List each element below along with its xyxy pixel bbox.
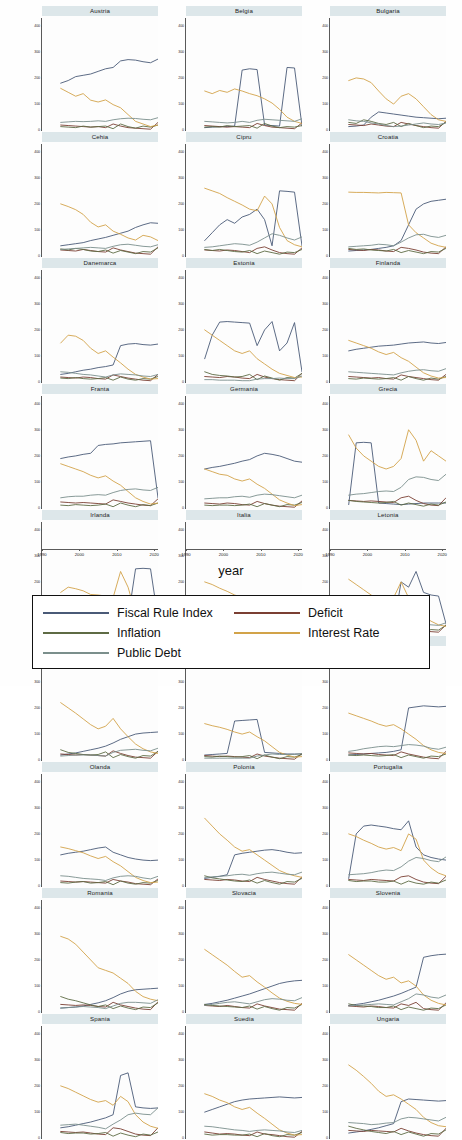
y-tick-label: 100 [178, 732, 184, 736]
facet-strip: Croatia [330, 132, 446, 142]
plot-area [42, 1024, 158, 1140]
facet-panel: Suedia0100200300400 [162, 1014, 302, 1140]
x-tick-label: 2010 [256, 552, 265, 557]
series-line [205, 330, 302, 378]
series-line [349, 1065, 446, 1127]
facet-panel: Danemarca0100200300400 [18, 258, 158, 384]
plot-area [42, 898, 158, 1014]
y-tick-label: 200 [178, 958, 184, 962]
y-tick-label: 300 [34, 176, 40, 180]
facet-strip: Bulgaria [330, 6, 446, 16]
y-tick-label: 300 [34, 302, 40, 306]
plot-area [186, 1024, 302, 1140]
x-tick-mark [261, 549, 262, 551]
legend-item[interactable]: Inflation [43, 626, 228, 640]
series-line [349, 474, 446, 495]
series-line [205, 494, 302, 499]
y-tick-label: 100 [322, 480, 328, 484]
facet-panel: Bulgaria0100200300400 [306, 6, 446, 132]
y-tick-label: 400 [322, 276, 328, 280]
series-line [61, 936, 158, 1000]
y-tick-label: 100 [322, 354, 328, 358]
legend-item[interactable]: Deficit [234, 606, 419, 620]
series-line [349, 369, 446, 375]
y-tick-label: 0 [182, 1136, 184, 1140]
y-tick-label: 200 [322, 958, 328, 962]
legend-line-icon [43, 632, 109, 634]
y-axis: 0100200300400 [306, 1024, 330, 1140]
y-tick-label: 400 [322, 24, 328, 28]
facet-panel: Austria0100200300400 [18, 6, 158, 132]
y-tick-label: 200 [34, 580, 40, 584]
x-tick-label: 2000 [219, 552, 228, 557]
facet-strip: Danemarca [42, 258, 158, 268]
facet-title: Suedia [234, 1014, 254, 1024]
series-line [349, 754, 446, 758]
series-line [205, 191, 302, 246]
x-axis-line [186, 549, 302, 550]
facet-body: 0100200300400 [18, 394, 158, 510]
legend-item[interactable]: Fiscal Rule Index [43, 606, 228, 620]
facet-body: 0100200300400 [162, 394, 302, 510]
facet-title: Polonia [233, 762, 254, 772]
series-line [349, 234, 446, 247]
legend-label: Inflation [117, 626, 161, 640]
facet-strip: Irlanda [42, 510, 158, 520]
series-line [205, 67, 302, 127]
legend-item[interactable]: Interest Rate [234, 626, 419, 640]
legend-line-icon [234, 612, 300, 614]
facet-body: 0100200300400 [162, 1024, 302, 1140]
x-tick-label: 1990 [37, 552, 46, 557]
facet-body: 0100200300400 [306, 394, 446, 510]
y-tick-label: 100 [322, 984, 328, 988]
y-tick-label: 400 [34, 150, 40, 154]
series-line [61, 1073, 158, 1128]
facet-title: Cipru [236, 132, 251, 142]
facet-panel: Cipru0100200300400 [162, 132, 302, 258]
facet-strip: Portugalia [330, 762, 446, 772]
series-line [349, 430, 446, 469]
facet-strip: Cehia [42, 132, 158, 142]
facet-body: 0100200300400 [306, 142, 446, 258]
y-tick-label: 300 [322, 50, 328, 54]
series-line [349, 857, 446, 875]
series-line [349, 192, 446, 247]
series-line [205, 877, 302, 884]
legend-item[interactable]: Public Debt [43, 646, 228, 660]
series-line [205, 453, 302, 469]
series-line [205, 980, 302, 1004]
facet-title: Slovenia [376, 888, 401, 898]
x-tick-mark [223, 549, 224, 551]
series-line [205, 501, 302, 507]
x-tick-label: 2020 [150, 552, 159, 557]
series-line [61, 487, 158, 497]
plot-area [186, 394, 302, 510]
y-axis: 0100200300400 [162, 1024, 186, 1140]
y-axis: 0100200300400 [18, 16, 42, 132]
y-axis: 0100200300400 [162, 142, 186, 258]
x-tick-mark [367, 549, 368, 551]
facet-strip: Spania [42, 1014, 158, 1024]
plot-area [330, 16, 446, 132]
y-axis: 0100200300400 [18, 898, 42, 1014]
y-tick-label: 200 [178, 76, 184, 80]
y-tick-label: 200 [178, 454, 184, 458]
y-tick-label: 300 [322, 932, 328, 936]
plot-area [330, 898, 446, 1014]
y-tick-label: 400 [34, 1032, 40, 1036]
series-line [61, 223, 158, 246]
series-line [205, 322, 302, 372]
facet-title: Austria [90, 6, 110, 16]
x-tick-label: 2000 [75, 552, 84, 557]
legend-grid: Fiscal Rule IndexDeficitInflationInteres… [43, 603, 419, 663]
x-tick-mark [117, 549, 118, 551]
y-tick-label: 200 [178, 706, 184, 710]
x-tick-label: 1990 [181, 552, 190, 557]
y-tick-label: 100 [34, 858, 40, 862]
legend-label: Interest Rate [308, 626, 380, 640]
y-tick-label: 400 [178, 24, 184, 28]
y-tick-label: 300 [178, 50, 184, 54]
y-tick-label: 100 [178, 984, 184, 988]
series-line [349, 1099, 446, 1133]
series-line [61, 344, 158, 375]
